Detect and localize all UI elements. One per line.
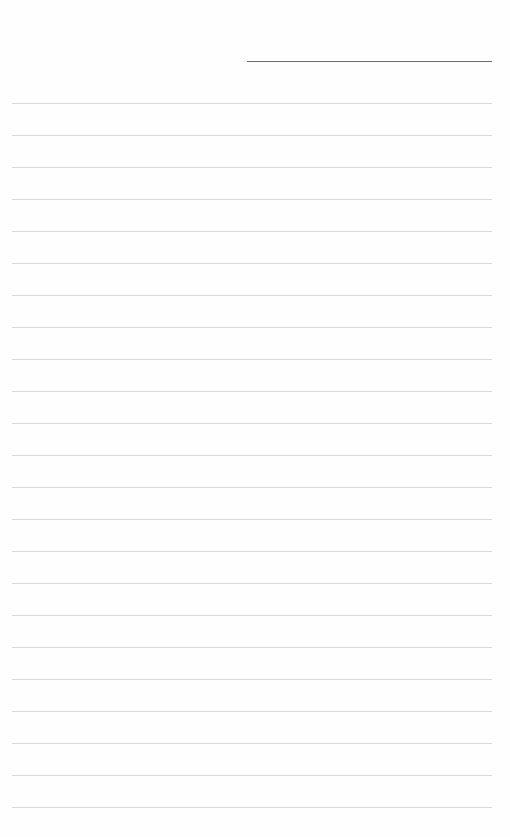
- body-zone: [0, 95, 510, 810]
- rule-line: [12, 743, 492, 744]
- rule-line: [12, 359, 492, 360]
- rule-line: [12, 647, 492, 648]
- rule-line: [12, 263, 492, 264]
- footer-zone: [0, 810, 510, 837]
- rule-line: [12, 167, 492, 168]
- rule-line: [12, 775, 492, 776]
- rule-line: [12, 327, 492, 328]
- rule-line: [12, 487, 492, 488]
- rule-line: [12, 231, 492, 232]
- header-zone: [0, 0, 510, 95]
- rule-line: [12, 615, 492, 616]
- title-underline: [247, 61, 492, 62]
- rule-line: [12, 455, 492, 456]
- ruled-page: [0, 0, 510, 837]
- rule-line: [12, 711, 492, 712]
- rule-line: [12, 807, 492, 808]
- rule-line: [12, 135, 492, 136]
- ruled-lines-container: [0, 95, 510, 810]
- rule-line: [12, 679, 492, 680]
- rule-line: [12, 103, 492, 104]
- rule-line: [12, 551, 492, 552]
- rule-line: [12, 199, 492, 200]
- rule-line: [12, 519, 492, 520]
- rule-line: [12, 295, 492, 296]
- rule-line: [12, 391, 492, 392]
- rule-line: [12, 423, 492, 424]
- rule-line: [12, 583, 492, 584]
